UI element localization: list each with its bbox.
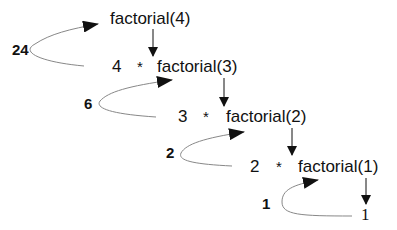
multiplier-4: 4 bbox=[112, 58, 121, 75]
call-factorial-3: factorial(3) bbox=[157, 58, 237, 75]
call-factorial-4: factorial(4) bbox=[110, 10, 190, 27]
call-factorial-2: factorial(2) bbox=[226, 108, 306, 125]
factorial-recursion-diagram: factorial(4) 4 * factorial(3) 3 * factor… bbox=[0, 0, 397, 230]
return-value-6: 6 bbox=[84, 96, 92, 111]
multiply-operator: * bbox=[137, 59, 143, 74]
multiplier-3: 3 bbox=[178, 108, 187, 125]
multiply-operator: * bbox=[276, 159, 282, 174]
return-curve-24 bbox=[30, 24, 98, 66]
arrows-layer bbox=[0, 0, 397, 230]
return-value-2: 2 bbox=[166, 145, 174, 160]
multiplier-2: 2 bbox=[250, 158, 259, 175]
return-curve-1 bbox=[282, 180, 352, 216]
multiply-operator: * bbox=[203, 109, 209, 124]
return-curve-6 bbox=[99, 80, 172, 117]
return-curve-2 bbox=[181, 132, 244, 166]
call-factorial-1: factorial(1) bbox=[298, 158, 378, 175]
return-value-1: 1 bbox=[262, 196, 270, 211]
base-case-value: 1 bbox=[361, 206, 370, 223]
return-value-24: 24 bbox=[12, 42, 29, 57]
